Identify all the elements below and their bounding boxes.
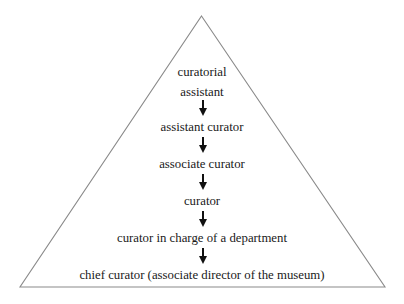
level-label: assistant curator — [0, 120, 404, 134]
level-label-line1: curatorial — [0, 62, 404, 82]
hierarchy-levels-stack: curatorial assistant assistant curator a… — [0, 0, 404, 304]
level-curatorial-assistant: curatorial assistant — [0, 62, 404, 102]
level-label: associate curator — [0, 157, 404, 171]
arrow-curator-to-curator-in-charge — [0, 211, 404, 227]
arrow-associate-curator-to-curator — [0, 174, 404, 190]
level-label: curator in charge of a department — [0, 231, 404, 245]
arrow-assistant-curator-to-associate-curator — [0, 137, 404, 153]
level-associate-curator: associate curator — [0, 157, 404, 171]
arrow-down-icon — [199, 248, 208, 264]
arrow-head — [199, 182, 207, 190]
arrow-down-icon — [199, 174, 208, 190]
level-chief-curator: chief curator (associate director of the… — [0, 268, 404, 282]
arrow-head — [199, 145, 207, 153]
level-label: chief curator (associate director of the… — [0, 268, 404, 282]
arrow-head — [199, 256, 207, 264]
arrow-down-icon — [199, 211, 208, 227]
level-curator: curator — [0, 194, 404, 208]
arrow-curatorial-assistant-to-assistant-curator — [0, 100, 404, 116]
curatorial-hierarchy-pyramid-figure: curatorial assistant assistant curator a… — [0, 0, 404, 304]
arrow-head — [199, 108, 207, 116]
arrow-down-icon — [199, 100, 208, 116]
arrow-down-icon — [199, 137, 208, 153]
arrow-curator-in-charge-to-chief-curator — [0, 248, 404, 264]
level-label-line2: assistant — [0, 82, 404, 102]
level-curator-in-charge-of-a-department: curator in charge of a department — [0, 231, 404, 245]
level-assistant-curator: assistant curator — [0, 120, 404, 134]
arrow-head — [199, 219, 207, 227]
level-label: curator — [0, 194, 404, 208]
